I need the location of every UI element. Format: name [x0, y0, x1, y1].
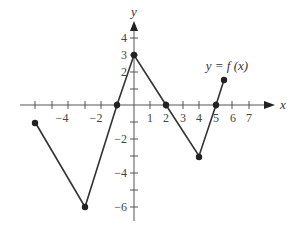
function-label: y = f (x): [204, 58, 248, 73]
x-tick-label: 3: [180, 111, 186, 125]
function-line: [35, 55, 224, 207]
x-tick-label: −4: [56, 111, 69, 125]
y-tick-label: −4: [114, 166, 127, 180]
x-tick-label: 2: [163, 111, 169, 125]
y-tick-label: 3: [121, 48, 127, 62]
y-axis-arrow-icon: [130, 21, 138, 31]
x-tick-label: −2: [90, 111, 103, 125]
y-tick-label: −6: [114, 200, 127, 214]
x-tick-label: 6: [230, 111, 236, 125]
y-axis-label: y: [129, 4, 137, 19]
y-tick-label: −2: [114, 132, 127, 146]
x-tick-label: 7: [246, 111, 252, 125]
x-axis-arrow-icon: [264, 101, 275, 109]
x-tick-label: 4: [196, 111, 202, 125]
x-tick-label: 1: [147, 111, 153, 125]
data-points: [32, 52, 227, 210]
function-graph: −4 −2 1 2 3 4 5 6 7 4 3 2 −2 −4 −6 y x y…: [0, 0, 299, 227]
y-tick-label: 4: [121, 31, 127, 45]
x-axis-label: x: [279, 97, 286, 112]
